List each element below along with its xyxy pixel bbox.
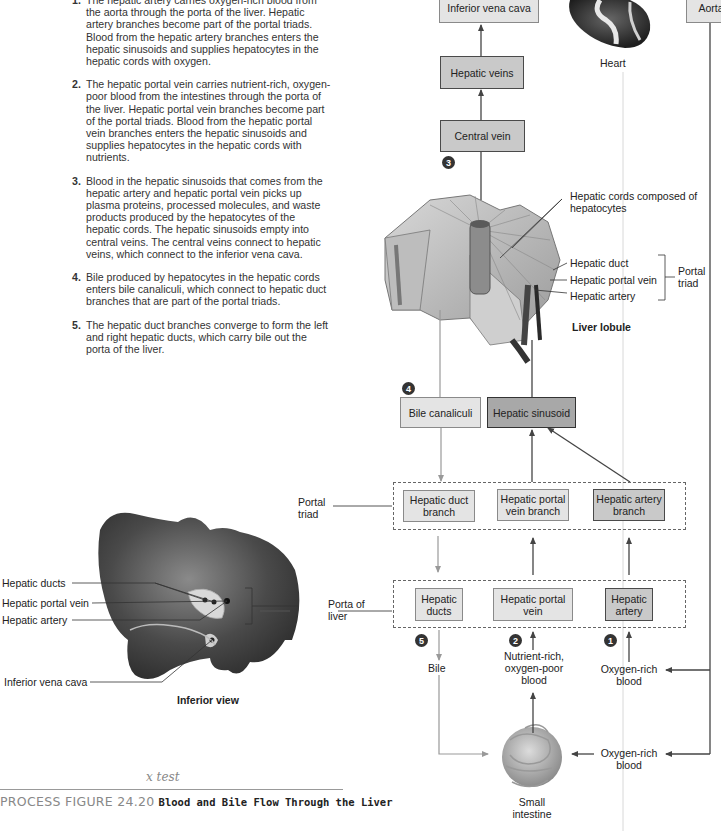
step-badge-4: 4 — [402, 382, 415, 395]
figure-id: PROCESS FIGURE 24.20 — [0, 794, 155, 809]
small-intestine-illustration — [502, 725, 562, 787]
box-inferior-vena-cava: Inferior vena cava — [439, 0, 539, 23]
label-portal-triad-bracket: Portal triad — [678, 265, 718, 289]
label-bile: Bile — [428, 662, 446, 674]
box-hepatic-artery: Hepatic artery — [605, 588, 653, 621]
label-lobule-hepatic-artery: Hepatic artery — [570, 290, 635, 302]
diagram-graphics — [0, 0, 721, 831]
label-small-intestine: Small intestine — [510, 796, 554, 820]
label-liver-hepatic-ducts: Hepatic ducts — [2, 577, 66, 589]
label-liver-inferior-vena-cava: Inferior vena cava — [4, 676, 87, 688]
label-inferior-view: Inferior view — [177, 694, 239, 706]
box-hepatic-artery-branch: Hepatic artery branch — [593, 489, 665, 521]
figure-caption: PROCESS FIGURE 24.20Blood and Bile Flow … — [0, 794, 393, 809]
label-hepatic-cords: Hepatic cords composed of hepatocytes — [570, 190, 720, 214]
label-lobule-hepatic-portal-vein: Hepatic portal vein — [570, 274, 657, 286]
liver-inferior-illustration — [98, 513, 299, 679]
box-hepatic-portal-vein-branch: Hepatic portal vein branch — [497, 489, 569, 521]
heart-illustration — [569, 0, 650, 48]
step-badge-1: 1 — [604, 634, 617, 647]
box-hepatic-sinusoid: Hepatic sinusoid — [487, 397, 576, 428]
label-liver-hepatic-portal-vein: Hepatic portal vein — [2, 597, 89, 609]
label-portal-triad-group: Portal triad — [298, 496, 334, 520]
box-hepatic-portal-vein: Hepatic portal vein — [493, 588, 573, 621]
box-aorta: Aorta — [686, 0, 721, 23]
liver-lobule-illustration — [385, 195, 560, 362]
box-hepatic-veins: Hepatic veins — [440, 56, 524, 89]
box-central-vein: Central vein — [440, 120, 525, 152]
figure-title: Blood and Bile Flow Through the Liver — [159, 796, 393, 808]
label-oxygen-rich-blood-2: Oxygen-rich blood — [594, 747, 664, 771]
label-oxygen-rich-blood-1: Oxygen-rich blood — [594, 663, 664, 687]
box-hepatic-duct-branch: Hepatic duct branch — [403, 490, 475, 522]
label-lobule-hepatic-duct: Hepatic duct — [570, 257, 628, 269]
step-badge-3: 3 — [442, 156, 455, 169]
label-porta-of-liver: Porta of liver — [328, 598, 368, 622]
caption-divider — [0, 789, 343, 790]
label-nutrient-rich-blood: Nutrient-rich, oxygen-poor blood — [498, 650, 570, 686]
box-bile-canaliculi: Bile canaliculi — [400, 397, 481, 428]
box-hepatic-ducts: Hepatic ducts — [415, 588, 463, 621]
step-badge-5: 5 — [415, 634, 428, 647]
handwritten-note: x test — [146, 770, 180, 784]
label-heart: Heart — [600, 57, 626, 69]
step-badge-2: 2 — [509, 634, 522, 647]
label-liver-lobule: Liver lobule — [572, 321, 631, 333]
label-liver-hepatic-artery: Hepatic artery — [2, 614, 67, 626]
